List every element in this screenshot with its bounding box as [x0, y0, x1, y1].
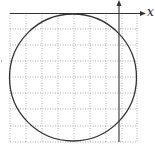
- x-axis-arrow-icon: [140, 11, 146, 16]
- y-axis-arrow-icon: [117, 0, 122, 6]
- x-axis-label: x: [147, 6, 154, 18]
- diagram-canvas: [0, 0, 155, 148]
- x-axis: [10, 11, 146, 16]
- left-marker: [1, 60, 2, 61]
- y-axis: [117, 0, 122, 142]
- circle: [10, 14, 137, 141]
